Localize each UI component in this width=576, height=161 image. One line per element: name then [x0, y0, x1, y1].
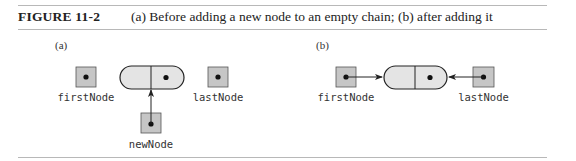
panel-a-lastNode-box: [208, 67, 228, 87]
panel-b-lastNode-label: lastNode: [458, 91, 509, 103]
panel-a-firstNode-box: [76, 67, 96, 87]
panel-b-lastNode-box: [449, 67, 494, 87]
panel-a-node: [120, 66, 184, 89]
panel-a: firstNode lastNode newNode: [58, 66, 244, 150]
panel-b-firstNode-label: firstNode: [318, 91, 375, 103]
panel-a-newNode-box: [141, 90, 161, 133]
panel-b-firstNode-box: [336, 67, 382, 87]
bottom-rule: [18, 157, 547, 158]
panel-a-node-next-dot: [163, 75, 168, 80]
linked-chain-diagram: firstNode lastNode newNode firstNode: [0, 0, 576, 161]
panel-a-newNode-label: newNode: [129, 138, 173, 150]
panel-a-firstNode-label: firstNode: [58, 91, 115, 103]
panel-a-lastNode-label: lastNode: [193, 91, 244, 103]
panel-b-node-next-dot: [427, 75, 432, 80]
panel-b: firstNode lastNode: [318, 66, 509, 103]
panel-b-node: [384, 66, 447, 89]
